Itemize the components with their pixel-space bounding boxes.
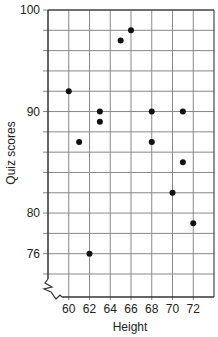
data-point [97,109,103,115]
y-tick-label: 80 [27,206,41,220]
data-point [76,139,82,145]
x-tick-label: 66 [124,302,138,316]
y-axis-ticks: 100908076 [20,3,40,261]
y-tick-label: 100 [20,3,40,17]
x-tick-label: 72 [187,302,201,316]
x-tick-label: 68 [145,302,159,316]
x-tick-label: 62 [83,302,97,316]
data-point [97,119,103,125]
data-point [170,190,176,196]
data-point [149,109,155,115]
axes [44,10,214,299]
data-point [190,220,196,226]
data-point [128,27,134,33]
y-tick-label: 90 [27,105,41,119]
y-axis-title: Quiz scores [4,121,18,184]
scatter-chart: 100908076 60626466687072 Height Quiz sco… [0,0,218,337]
x-tick-label: 60 [62,302,76,316]
data-point [149,139,155,145]
data-point [180,109,186,115]
data-point [180,159,186,165]
x-tick-label: 64 [104,302,118,316]
x-axis-title: Height [113,320,148,334]
x-tick-label: 70 [166,302,180,316]
grid-lines [43,10,214,300]
axis-break-icon [44,279,62,299]
x-axis-ticks: 60626466687072 [62,302,200,316]
data-point [87,251,93,257]
y-tick-label: 76 [27,247,41,261]
data-point [66,88,72,94]
data-point [118,37,124,43]
